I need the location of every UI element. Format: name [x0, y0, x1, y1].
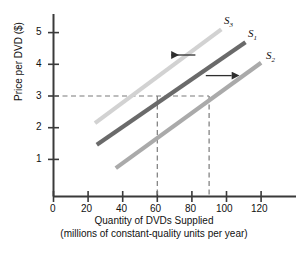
x-tick-label-120: 120: [251, 203, 268, 214]
y-tick-label-3: 3: [36, 90, 42, 101]
reference-dashed-lines: [54, 96, 209, 196]
curve-label-S1: S1: [248, 27, 257, 42]
curve-label-S2: S2: [266, 49, 275, 64]
x-tick-label-40: 40: [116, 203, 127, 214]
supply-curves: [95, 29, 261, 168]
x-axis-label-main: Quantity of DVDs Supplied: [18, 214, 290, 227]
axis-lines: [53, 14, 296, 197]
curve-label-S2-subscript: 2: [272, 56, 276, 64]
supply-curve-figure: 5 4 3 2 1 0 20 40 60 80 100 120 Price pe…: [0, 0, 306, 256]
x-tick-label-100: 100: [216, 203, 233, 214]
curve-label-S1-subscript: 1: [254, 34, 258, 42]
x-axis-label-sub: (millions of constant-quality units per …: [18, 227, 290, 240]
curve-label-S3-subscript: 3: [230, 21, 234, 29]
supply-curve-S3: [95, 29, 221, 123]
y-tick-label-1: 1: [36, 153, 42, 164]
x-tick-label-20: 20: [81, 203, 92, 214]
y-tick-label-2: 2: [36, 121, 42, 132]
x-axis-label-block: Quantity of DVDs Supplied (millions of c…: [18, 214, 290, 240]
x-tick-label-0: 0: [50, 203, 56, 214]
y-tick-label-4: 4: [36, 58, 42, 69]
curve-label-S3: S3: [224, 14, 233, 29]
x-tick-label-60: 60: [150, 203, 161, 214]
x-tick-label-80: 80: [185, 203, 196, 214]
y-tick-label-5: 5: [36, 26, 42, 37]
y-axis-label: Price per DVD ($): [13, 2, 24, 122]
